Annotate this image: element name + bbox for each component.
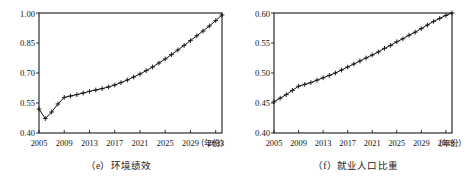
chart-e-markers (37, 13, 225, 121)
chart-f-xticklabels: 20052009201320172021202520292033 (266, 139, 455, 148)
y-tick-label: 0.60 (255, 9, 270, 19)
y-tick-label: 1.00 (20, 9, 35, 19)
x-axis-unit-label: （年份） (434, 138, 466, 148)
chart-e-svg: 0.40 0.55 0.70 0.85 1.00 200520092013201… (0, 0, 237, 158)
y-tick-label: 0.70 (20, 68, 35, 78)
series-polyline (274, 13, 452, 102)
chart-e-series-line (39, 15, 222, 119)
y-tick-label: 0.85 (20, 38, 35, 48)
plot-frame (274, 13, 452, 133)
chart-f-axes (274, 13, 452, 133)
x-tick-label: 2009 (56, 139, 73, 148)
chart-panel-e: 0.40 0.55 0.70 0.85 1.00 200520092013201… (0, 0, 237, 187)
y-tick-label: 0.40 (20, 128, 35, 138)
x-tick-label: 2013 (315, 139, 332, 148)
chart-f-yticklabels: 0.40 0.45 0.50 0.55 0.60 (255, 9, 270, 138)
x-tick-label: 2025 (157, 139, 174, 148)
chart-f-markers (272, 11, 455, 105)
chart-f-series-line (274, 13, 452, 102)
x-tick-label: 2021 (132, 139, 149, 148)
figure-container: 0.40 0.55 0.70 0.85 1.00 200520092013201… (0, 0, 475, 187)
x-tick-label: 2017 (106, 139, 123, 148)
panel-caption-e: （e）环境绩效 (0, 158, 237, 172)
x-tick-label: 2017 (339, 139, 356, 148)
x-axis-unit-label: （年份） (196, 138, 228, 148)
chart-f-svg: 0.40 0.45 0.50 0.55 0.60 200520092013201… (237, 0, 475, 158)
y-tick-label: 0.55 (20, 98, 35, 108)
chart-e-axes (39, 13, 222, 133)
x-tick-label: 2005 (266, 139, 283, 148)
panel-caption-f: （f）就业人口比重 (237, 158, 474, 172)
y-tick-label: 0.50 (255, 68, 270, 78)
chart-panel-f: 0.40 0.45 0.50 0.55 0.60 200520092013201… (237, 0, 474, 187)
chart-f-tick-marks (271, 13, 446, 133)
y-tick-label: 0.40 (255, 128, 270, 138)
y-tick-label: 0.55 (255, 38, 270, 48)
chart-e-yticklabels: 0.40 0.55 0.70 0.85 1.00 (20, 9, 35, 138)
plot-frame (39, 13, 222, 133)
x-tick-label: 2025 (388, 139, 405, 148)
y-tick-label: 0.45 (255, 98, 270, 108)
x-tick-label: 2021 (364, 139, 381, 148)
x-tick-label: 2005 (31, 139, 48, 148)
x-tick-label: 2029 (413, 139, 430, 148)
series-polyline (39, 15, 222, 119)
chart-e-tick-marks (36, 13, 216, 133)
x-tick-label: 2013 (81, 139, 98, 148)
x-tick-label: 2009 (290, 139, 307, 148)
